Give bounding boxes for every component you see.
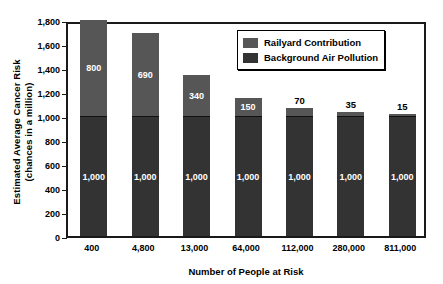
bar-value-label-railyard: 70: [280, 95, 319, 106]
bar-segment-railyard-contribution[interactable]: 800: [80, 20, 107, 116]
bar-group[interactable]: 151,000: [389, 114, 416, 236]
legend-color-swatch: [243, 53, 258, 63]
y-axis-tick-mark: [62, 238, 67, 239]
bar-segment-background-air-pollution[interactable]: 1,000: [80, 116, 107, 236]
y-axis-tick-label: 1,800: [22, 18, 60, 27]
cancer-risk-stacked-bar-chart: Estimated Average Cancer Risk (chances i…: [0, 0, 443, 284]
bar-value-label-railyard: 35: [331, 99, 370, 110]
bar-group[interactable]: 3401,000: [183, 75, 210, 236]
y-axis-tick-label: 1,200: [22, 90, 60, 99]
bar-segment-railyard-contribution[interactable]: 70: [286, 108, 313, 116]
bar-value-label-railyard: 340: [183, 91, 210, 101]
y-axis-tick-label: 400: [22, 186, 60, 195]
bar-value-label-railyard: 150: [235, 102, 262, 112]
bar-value-label-background: 1,000: [80, 172, 107, 182]
bar-group[interactable]: 351,000: [337, 112, 364, 236]
legend-item[interactable]: Background Air Pollution: [243, 50, 378, 65]
chart-legend: Railyard ContributionBackground Air Poll…: [237, 30, 385, 70]
bar-segment-background-air-pollution[interactable]: 1,000: [389, 116, 416, 236]
bar-segment-background-air-pollution[interactable]: 1,000: [183, 116, 210, 236]
bar-segment-background-air-pollution[interactable]: 1,000: [286, 116, 313, 236]
y-axis-tick-label: 1,000: [22, 114, 60, 123]
bar-value-label-background: 1,000: [286, 172, 313, 182]
bar-segment-background-air-pollution[interactable]: 1,000: [337, 116, 364, 236]
bar-value-label-background: 1,000: [235, 172, 262, 182]
bar-segment-background-air-pollution[interactable]: 1,000: [235, 116, 262, 236]
bar-segment-background-air-pollution[interactable]: 1,000: [132, 116, 159, 236]
bar-value-label-background: 1,000: [389, 172, 416, 182]
y-axis-tick-label: 1,400: [22, 66, 60, 75]
bar-group[interactable]: 8001,000: [80, 20, 107, 236]
y-axis-tick-label: 0: [22, 234, 60, 243]
x-axis-tick-label: 811,000: [370, 243, 430, 253]
bar-value-label-railyard: 15: [383, 101, 422, 112]
bar-segment-railyard-contribution[interactable]: 690: [132, 33, 159, 116]
bar-group[interactable]: 6901,000: [132, 33, 159, 236]
bar-segment-railyard-contribution[interactable]: 340: [183, 75, 210, 116]
bar-value-label-railyard: 690: [132, 70, 159, 80]
legend-item-label: Railyard Contribution: [264, 37, 361, 48]
y-axis-tick-label: 1,600: [22, 42, 60, 51]
y-axis-tick-label: 200: [22, 210, 60, 219]
legend-item[interactable]: Railyard Contribution: [243, 35, 378, 50]
bar-group[interactable]: 1501,000: [235, 98, 262, 236]
bar-value-label-background: 1,000: [183, 172, 210, 182]
bar-value-label-background: 1,000: [132, 172, 159, 182]
legend-item-label: Background Air Pollution: [264, 52, 378, 63]
legend-color-swatch: [243, 38, 258, 48]
bar-value-label-railyard: 800: [80, 63, 107, 73]
y-axis-tick-label: 600: [22, 162, 60, 171]
y-axis-tick-label: 800: [22, 138, 60, 147]
bar-value-label-background: 1,000: [337, 172, 364, 182]
x-axis-title: Number of People at Risk: [66, 266, 426, 277]
bar-segment-railyard-contribution[interactable]: 150: [235, 98, 262, 116]
bar-group[interactable]: 701,000: [286, 108, 313, 236]
